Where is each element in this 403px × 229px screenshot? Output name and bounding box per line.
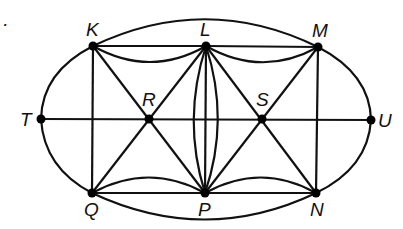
bullet-mark: · [2,13,8,34]
edge-L-M-curve [206,46,318,62]
edge-K-L-curve [93,46,206,62]
vertex-S [258,115,267,124]
label-N: N [310,199,324,220]
label-T: T [20,109,33,130]
edge-M-N [316,47,318,193]
label-R: R [142,89,156,110]
vertex-T [37,115,46,124]
label-L: L [200,19,211,40]
edge-L-M [206,46,318,47]
label-S: S [256,89,269,110]
vertex-Q [88,189,97,198]
edge-U-N-arc [316,120,371,193]
vertex-L [202,42,211,51]
label-K: K [86,19,100,40]
label-M: M [312,20,328,41]
edge-K-Q [92,46,93,193]
edge-P-N-curve [205,178,316,194]
edge-Q-P-curve [92,178,205,194]
graph-diagram: · K L M T R S U Q P N [0,0,403,229]
vertex-P [201,189,210,198]
edge-K-T-arc [41,46,93,119]
vertex-R [145,115,154,124]
edge-L-P [205,46,206,193]
edge-T-Q-arc [41,119,92,193]
label-U: U [378,110,392,131]
vertex-M [314,43,323,52]
vertex-U [367,116,376,125]
vertex-K [89,42,98,51]
vertex-N [312,189,321,198]
label-P: P [198,199,211,220]
edge-M-U-arc [318,47,371,120]
label-Q: Q [84,199,99,220]
